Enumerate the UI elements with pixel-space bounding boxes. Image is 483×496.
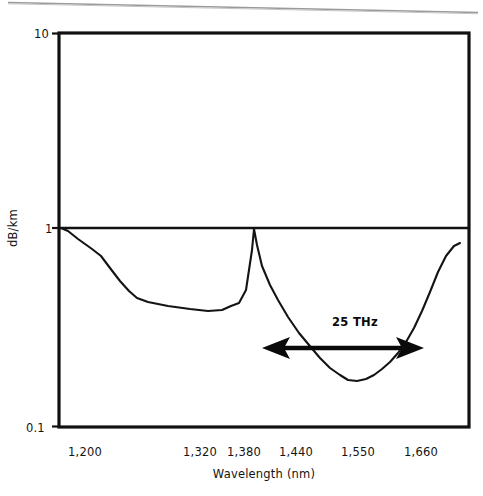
ytick-label-1: 1 [45, 222, 53, 236]
x-axis-title: Wavelength (nm) [213, 467, 315, 481]
xtick-label-1440: 1,440 [279, 445, 313, 459]
attenuation-plot [0, 0, 483, 496]
y-axis-title: dB/km [6, 209, 20, 247]
ytick-label-10: 10 [34, 27, 49, 41]
xtick-label-1200: 1,200 [68, 445, 102, 459]
attenuation-curve [61, 228, 460, 381]
xtick-label-1550: 1,550 [341, 445, 375, 459]
xtick-label-1380: 1,380 [227, 445, 261, 459]
ytick-label-0-1: 0.1 [26, 421, 45, 435]
bandwidth-annotation-label: 25 THz [332, 315, 378, 329]
figure-container: 10 1 0.1 dB/km 1,200 1,320 1,380 1,440 1… [0, 0, 483, 496]
xtick-label-1320: 1,320 [183, 445, 217, 459]
plot-frame [59, 33, 469, 427]
xtick-label-1660: 1,660 [404, 445, 438, 459]
